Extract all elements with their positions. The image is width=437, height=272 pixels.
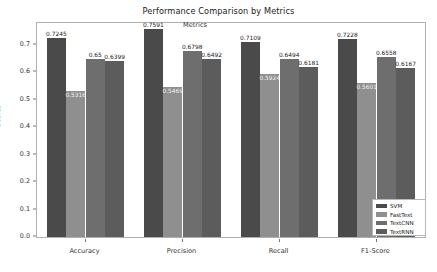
bar-fasttext-precision: 0.5469 [163, 87, 182, 237]
y-axis-tick-label: 0.3 [20, 150, 30, 158]
chart-figure: Performance Comparison by Metrics 0.00.1… [0, 0, 437, 272]
bar-value-label: 0.65 [89, 52, 102, 58]
bar-svm-recall: 0.7109 [241, 42, 260, 237]
bar-value-label: 0.6798 [182, 44, 203, 50]
bar-value-label: 0.7228 [337, 32, 358, 38]
chart-title: Performance Comparison by Metrics [0, 6, 437, 16]
x-axis: AccuracyPrecisionRecallF1-Score [36, 239, 426, 269]
legend-item-label: FastText [390, 212, 413, 218]
x-axis-tick-label: Recall [269, 247, 289, 255]
bar-value-label: 0.5601 [356, 84, 377, 90]
bar-textrnn-precision: 0.6492 [202, 59, 221, 237]
y-axis: 0.00.10.20.30.40.50.60.7 [0, 22, 36, 239]
legend-swatch-icon [376, 229, 387, 234]
legend-item-label: TextRNN [390, 229, 414, 235]
x-axis-tick-label: F1-Score [361, 247, 390, 255]
legend-item-fasttext[interactable]: FastText [376, 211, 422, 219]
bar-value-label: 0.5924 [259, 75, 280, 81]
bar-value-label: 0.7245 [46, 31, 67, 37]
y-axis-tick-label: 0.7 [20, 40, 30, 48]
bar-fasttext-accuracy: 0.5316 [66, 91, 85, 237]
x-axis-tick-mark [85, 239, 86, 242]
x-axis-tick-label: Accuracy [69, 247, 99, 255]
legend-swatch-icon [376, 221, 387, 226]
plot-area: 0.72450.53160.650.63990.75910.54690.6798… [36, 22, 426, 238]
x-axis-label: Metrics [0, 21, 390, 29]
bar-textcnn-recall: 0.6494 [280, 59, 299, 237]
legend-item-label: SVM [390, 203, 402, 209]
legend-item-label: TextCNN [390, 220, 414, 226]
bar-textrnn-accuracy: 0.6399 [105, 61, 124, 237]
bar-fasttext-recall: 0.5924 [260, 74, 279, 237]
legend-item-textrnn[interactable]: TextRNN [376, 228, 422, 236]
y-axis-tick-label: 0.5 [20, 95, 30, 103]
y-axis-tick-label: 0.2 [20, 177, 30, 185]
x-axis-tick-mark [376, 239, 377, 242]
bar-value-label: 0.6399 [104, 54, 125, 60]
chart-legend: SVMFastTextTextCNNTextRNN [372, 199, 426, 236]
bar-textcnn-precision: 0.6798 [183, 51, 202, 238]
y-axis-tick-label: 0.4 [20, 122, 30, 130]
legend-swatch-icon [376, 204, 387, 209]
x-axis-tick-mark [182, 239, 183, 242]
bar-svm-f1-score: 0.7228 [338, 39, 357, 237]
bar-svm-precision: 0.7591 [144, 29, 163, 237]
bar-value-label: 0.5316 [65, 92, 86, 98]
bar-value-label: 0.6181 [298, 60, 319, 66]
bar-value-label: 0.7109 [240, 35, 261, 41]
x-axis-tick-label: Precision [167, 247, 196, 255]
bar-value-label: 0.6167 [395, 61, 416, 67]
legend-item-svm[interactable]: SVM [376, 202, 422, 210]
bar-value-label: 0.5469 [162, 88, 183, 94]
bar-textrnn-recall: 0.6181 [299, 67, 318, 237]
y-axis-tick-label: 0.0 [20, 232, 30, 240]
bar-textcnn-accuracy: 0.65 [86, 59, 105, 237]
bar-value-label: 0.6558 [376, 50, 397, 56]
legend-item-textcnn[interactable]: TextCNN [376, 219, 422, 227]
y-axis-label: Scores [0, 105, 2, 127]
x-axis-tick-mark [279, 239, 280, 242]
legend-swatch-icon [376, 212, 387, 217]
bar-value-label: 0.6494 [279, 52, 300, 58]
y-axis-tick-label: 0.1 [20, 205, 30, 213]
bar-value-label: 0.6492 [201, 52, 222, 58]
bar-svm-accuracy: 0.7245 [47, 38, 66, 237]
y-axis-tick-label: 0.6 [20, 67, 30, 75]
